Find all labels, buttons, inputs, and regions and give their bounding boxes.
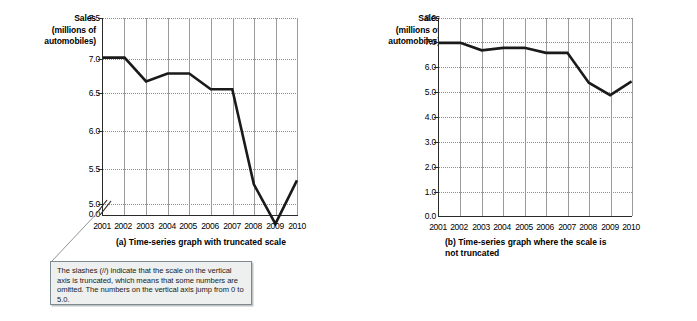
x-tick-label-a-2010: 2010 <box>282 221 312 231</box>
y-tick-label-b-5: 3.0 <box>410 137 436 147</box>
y-tick-label-b-2: 6.0 <box>410 62 436 72</box>
plot-area-a <box>102 18 298 216</box>
callout-box: The slashes (//) indicate that the scale… <box>50 261 252 305</box>
caption-b-line2: not truncated <box>445 248 660 259</box>
callout-leader-line <box>0 200 120 270</box>
y-tick-label-b-1: 7.0 <box>410 37 436 47</box>
data-line-b <box>439 18 633 217</box>
plot-area-b <box>438 18 632 217</box>
y-axis-title-line2: (millions of <box>352 25 440 37</box>
y-tick-label-b-3: 5.0 <box>410 87 436 97</box>
y-tick-label-a-4: 5.5 <box>74 164 100 174</box>
caption-b: (b) Time-series graph where the scale is… <box>445 237 660 259</box>
y-tick-label-b-7: 1.0 <box>410 187 436 197</box>
y-tick-label-a-3: 6.0 <box>74 126 100 136</box>
callout-text: The slashes (//) indicate that the scale… <box>57 266 246 304</box>
y-tick-label-b-8: 0.0 <box>410 211 436 221</box>
caption-b-line1: (b) Time-series graph where the scale is <box>445 237 660 248</box>
caption-a: (a) Time-series graph with truncated sca… <box>116 237 336 248</box>
y-tick-label-a-2: 6.5 <box>74 88 100 98</box>
y-tick-label-a-0: 7.5 <box>74 13 100 23</box>
y-axis-title-line2: (millions of <box>8 25 96 37</box>
y-tick-label-b-6: 2.0 <box>410 162 436 172</box>
y-tick-label-b-0: 8.0 <box>410 13 436 23</box>
y-tick-label-b-4: 4.0 <box>410 112 436 122</box>
x-tick-label-b-2010: 2010 <box>616 222 646 232</box>
y-axis-title-line3: automobiles) <box>8 36 96 48</box>
data-line-a <box>103 18 299 216</box>
y-tick-label-a-1: 7.0 <box>74 54 100 64</box>
panel-untruncated-chart: Sales (millions of automobiles) 8.0 7.0 … <box>350 0 697 321</box>
